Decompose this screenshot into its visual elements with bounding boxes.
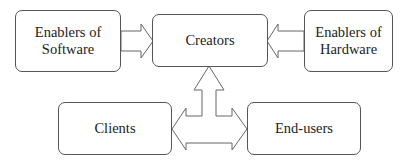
node-label: Creators bbox=[185, 32, 234, 49]
node-label: End-users bbox=[275, 120, 333, 137]
node-label-line1: Enablers of bbox=[35, 24, 101, 41]
node-label: Clients bbox=[94, 120, 135, 137]
arrow-hardware-to-creators bbox=[267, 24, 304, 58]
node-label-line2: Hardware bbox=[315, 41, 381, 58]
arrow-tri-directional bbox=[172, 66, 247, 150]
node-enablers-of-hardware: Enablers of Hardware bbox=[304, 10, 393, 72]
node-label-line1: Enablers of bbox=[315, 24, 381, 41]
node-clients: Clients bbox=[58, 102, 172, 155]
node-creators: Creators bbox=[152, 14, 268, 67]
node-label-line2: Software bbox=[35, 41, 101, 58]
node-enablers-of-software: Enablers of Software bbox=[15, 10, 121, 72]
node-end-users: End-users bbox=[247, 102, 361, 155]
arrow-software-to-creators bbox=[121, 24, 153, 58]
